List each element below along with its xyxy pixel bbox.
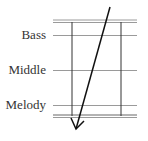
voice-layer-diagram: Bass Middle Melody — [0, 0, 148, 141]
bottom-double-line — [53, 115, 137, 118]
top-double-line — [53, 20, 137, 23]
downward-arrow-icon — [71, 7, 110, 129]
diagram-graphic — [0, 0, 148, 141]
